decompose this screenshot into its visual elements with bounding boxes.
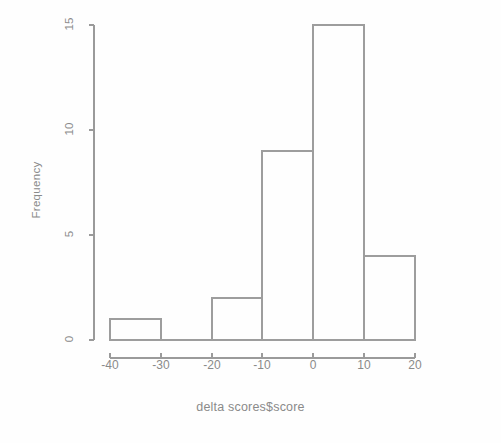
- bar-bin-6: [364, 256, 415, 340]
- x-tick-label-10: 10: [344, 358, 384, 372]
- y-tick-label-10: 10: [63, 118, 75, 140]
- y-axis-title: Frequency: [30, 10, 48, 130]
- bar-bin-3: [212, 298, 262, 340]
- x-tick-label-0: 0: [293, 358, 333, 372]
- x-axis-title: delta scores$score: [0, 400, 501, 414]
- x-tick-label-minus20: -20: [192, 358, 232, 372]
- y-axis-title-text: Frequency: [30, 130, 42, 250]
- bar-bin-4: [262, 151, 313, 340]
- bar-bin-1: [110, 319, 161, 340]
- x-tick-label-minus30: -30: [141, 358, 181, 372]
- bar-bin-5: [313, 25, 364, 340]
- plot-canvas: [0, 0, 501, 443]
- x-tick-label-minus40: -40: [90, 358, 130, 372]
- y-tick-label-0: 0: [63, 328, 75, 350]
- y-axis: [89, 25, 94, 340]
- x-tick-label-minus10: -10: [242, 358, 282, 372]
- histogram-bars: [110, 25, 415, 340]
- y-tick-label-5: 5: [63, 223, 75, 245]
- y-tick-label-15: 15: [63, 13, 75, 35]
- histogram-figure: 15 10 5 0 -40 -30 -20 -10 0 10 20 Freque…: [0, 0, 501, 443]
- x-tick-label-20: 20: [395, 358, 435, 372]
